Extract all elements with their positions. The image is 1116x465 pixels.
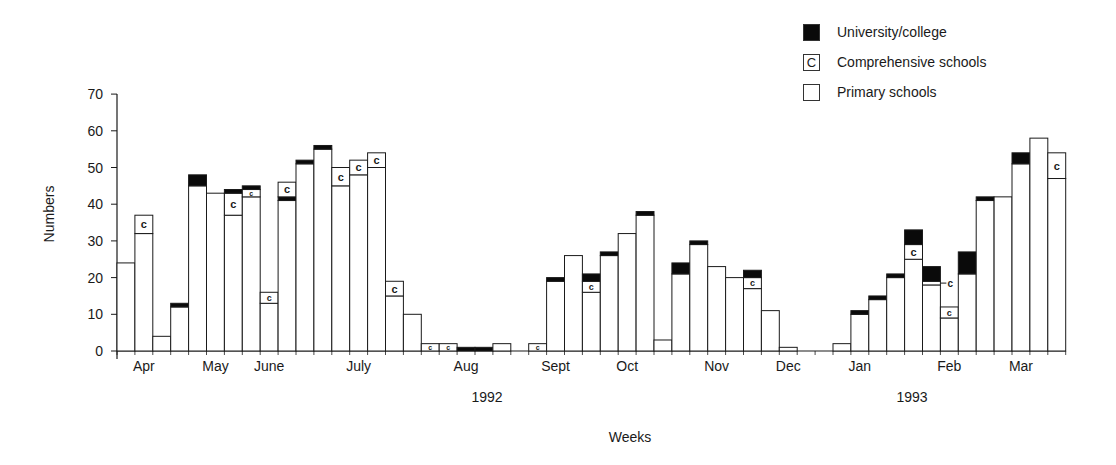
university-segment <box>582 274 600 281</box>
primary-segment <box>1048 179 1066 351</box>
c-marker: c <box>536 344 540 351</box>
university-segment <box>475 347 493 351</box>
university-segment <box>976 197 994 201</box>
university-segment <box>1012 153 1030 164</box>
week-bar <box>869 296 887 351</box>
week-bar <box>618 234 636 351</box>
primary-segment <box>600 256 618 351</box>
legend-item-comprehensive: C Comprehensive schools <box>803 52 986 72</box>
week-bar: c <box>135 215 153 351</box>
solid-black-swatch-icon <box>803 24 820 41</box>
university-segment <box>887 274 905 278</box>
primary-segment <box>224 215 242 351</box>
week-bar: c <box>242 186 260 351</box>
university-segment <box>869 296 887 300</box>
primary-segment <box>869 300 887 351</box>
week-bar <box>779 347 797 351</box>
c-marker: c <box>267 293 272 303</box>
primary-segment <box>386 296 404 351</box>
c-marker: c <box>391 283 397 295</box>
month-label: July <box>346 358 371 374</box>
university-segment <box>314 145 332 149</box>
week-bar <box>851 311 869 351</box>
university-segment <box>457 347 475 351</box>
y-tick-label: 10 <box>87 306 103 322</box>
month-label: Dec <box>776 358 801 374</box>
c-marker: c <box>750 278 755 288</box>
week-bar <box>636 212 654 351</box>
primary-segment <box>958 274 976 351</box>
year-label: 1993 <box>896 389 927 405</box>
y-tick-label: 40 <box>87 196 103 212</box>
c-marker: c <box>589 282 594 292</box>
week-bar <box>761 311 779 351</box>
primary-segment <box>940 318 958 351</box>
primary-segment <box>332 186 350 351</box>
week-bar: c <box>1048 153 1066 351</box>
week-bar <box>726 278 744 351</box>
week-bar: c <box>386 281 404 351</box>
week-bar <box>887 274 905 351</box>
week-bar <box>654 340 672 351</box>
week-bar <box>475 347 493 351</box>
comprehensive-segment <box>923 281 941 285</box>
university-segment <box>851 311 869 315</box>
week-bar: c <box>260 292 278 351</box>
primary-segment <box>368 168 386 352</box>
university-segment <box>224 190 242 194</box>
white-box-swatch-icon <box>803 84 820 101</box>
week-bar: c <box>439 344 457 351</box>
c-marker: c <box>284 183 290 195</box>
month-label: Apr <box>133 358 155 374</box>
c-marker: c <box>338 171 344 183</box>
week-bar: c <box>332 168 350 352</box>
c-marker: c <box>947 278 953 289</box>
c-marker: c <box>249 190 253 197</box>
primary-segment <box>117 263 135 351</box>
bars: cccccccccccccccccc <box>117 138 1066 351</box>
y-axis-title: Numbers <box>41 186 57 243</box>
c-marker: c <box>910 246 916 258</box>
month-label: Mar <box>1009 358 1033 374</box>
university-segment <box>905 230 923 245</box>
university-segment <box>744 270 762 277</box>
primary-segment <box>493 344 511 351</box>
primary-segment <box>547 281 565 351</box>
primary-segment <box>314 149 332 351</box>
university-segment <box>690 241 708 245</box>
university-segment <box>278 197 296 201</box>
week-bar <box>296 160 314 351</box>
week-bar <box>547 278 565 351</box>
primary-segment <box>672 274 690 351</box>
c-marker: c <box>1054 160 1060 172</box>
university-segment <box>296 160 314 164</box>
primary-segment <box>833 344 851 351</box>
primary-segment <box>278 201 296 351</box>
week-bar <box>189 175 207 351</box>
week-bar <box>1012 153 1030 351</box>
legend-label: Primary schools <box>837 84 937 100</box>
week-bar <box>672 263 690 351</box>
week-bar <box>958 252 976 351</box>
legend-label: Comprehensive schools <box>837 54 986 70</box>
legend-item-university: University/college <box>803 22 947 42</box>
c-marker: c <box>141 218 147 230</box>
week-bar <box>976 197 994 351</box>
week-bar: c <box>940 307 958 351</box>
c-box-swatch-icon: C <box>803 54 820 71</box>
primary-segment <box>403 314 421 351</box>
primary-segment <box>260 303 278 351</box>
primary-segment <box>923 285 941 351</box>
month-label: Aug <box>454 358 479 374</box>
week-bar <box>994 197 1012 351</box>
primary-segment <box>744 289 762 351</box>
primary-segment <box>779 347 797 351</box>
week-bar: c <box>368 153 386 351</box>
legend-label: University/college <box>837 24 947 40</box>
primary-segment <box>582 292 600 351</box>
week-bar <box>314 145 332 351</box>
week-bar: c <box>744 270 762 351</box>
primary-segment <box>296 164 314 351</box>
year-label: 1992 <box>471 389 502 405</box>
university-segment <box>547 278 565 282</box>
